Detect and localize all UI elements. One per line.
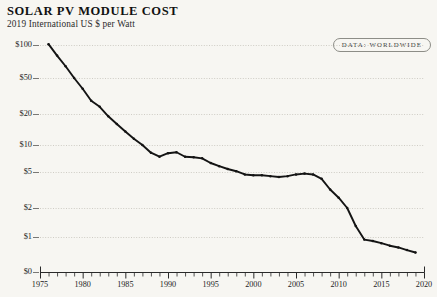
data-series-line bbox=[47, 43, 416, 254]
x-axis-tick-label: 1990 bbox=[148, 280, 188, 289]
data-point bbox=[414, 251, 417, 254]
data-point bbox=[141, 144, 144, 147]
data-point bbox=[329, 188, 332, 191]
data-point bbox=[372, 240, 375, 243]
data-point bbox=[226, 168, 229, 171]
data-point bbox=[303, 172, 306, 175]
x-axis-tick-label: 2010 bbox=[319, 280, 359, 289]
data-point bbox=[209, 162, 212, 165]
data-point bbox=[406, 249, 409, 252]
data-point bbox=[81, 88, 84, 91]
x-axis-tick-label: 1985 bbox=[105, 280, 145, 289]
x-tick-marks bbox=[41, 273, 425, 279]
data-point bbox=[363, 238, 366, 241]
y-axis-tick-label: $10 bbox=[0, 140, 32, 149]
x-axis-tick-label: 1975 bbox=[20, 280, 60, 289]
data-point bbox=[278, 176, 281, 179]
data-point bbox=[252, 174, 255, 177]
x-axis-tick-label: 2000 bbox=[233, 280, 273, 289]
data-point bbox=[286, 175, 289, 178]
data-point bbox=[150, 151, 153, 154]
y-axis-tick-label: $0 bbox=[0, 267, 32, 276]
data-point bbox=[312, 173, 315, 176]
y-axis-tick-label: $100 bbox=[0, 40, 32, 49]
x-axis-tick-label: 2015 bbox=[361, 280, 401, 289]
gridlines bbox=[33, 46, 424, 273]
data-point bbox=[389, 244, 392, 247]
data-point bbox=[235, 170, 238, 173]
data-point bbox=[244, 173, 247, 176]
data-point bbox=[261, 174, 264, 177]
data-point bbox=[337, 196, 340, 199]
data-point bbox=[158, 155, 161, 158]
axis-lines bbox=[41, 267, 425, 273]
data-point bbox=[218, 165, 221, 168]
data-point bbox=[380, 242, 383, 245]
series-path bbox=[49, 44, 416, 252]
plot-svg bbox=[0, 0, 437, 297]
data-point bbox=[90, 100, 93, 103]
data-point bbox=[98, 106, 101, 109]
chart-container: SOLAR PV MODULE COST 2019 International … bbox=[0, 0, 437, 297]
data-point bbox=[192, 156, 195, 159]
y-axis-tick-label: $20 bbox=[0, 109, 32, 118]
data-point bbox=[47, 43, 50, 46]
y-axis-tick-label: $2 bbox=[0, 203, 32, 212]
data-point bbox=[354, 225, 357, 228]
x-axis-tick-label: 2020 bbox=[404, 280, 437, 289]
data-point bbox=[124, 130, 127, 133]
x-axis-tick-label: 2005 bbox=[276, 280, 316, 289]
data-point bbox=[133, 138, 136, 141]
x-axis-tick-label: 1980 bbox=[63, 280, 103, 289]
data-point bbox=[320, 178, 323, 181]
data-point bbox=[346, 207, 349, 210]
data-point bbox=[116, 123, 119, 126]
data-point bbox=[107, 115, 110, 118]
y-axis-tick-label: $5 bbox=[0, 167, 32, 176]
data-point bbox=[201, 157, 204, 160]
data-point bbox=[167, 152, 170, 155]
x-axis-tick-label: 1995 bbox=[191, 280, 231, 289]
data-point bbox=[64, 65, 67, 68]
y-axis-tick-label: $1 bbox=[0, 232, 32, 241]
y-axis-tick-label: $50 bbox=[0, 73, 32, 82]
data-point bbox=[397, 246, 400, 249]
data-point bbox=[175, 151, 178, 154]
data-point bbox=[269, 175, 272, 178]
data-point bbox=[295, 173, 298, 176]
data-point bbox=[56, 54, 59, 57]
data-point bbox=[184, 155, 187, 158]
data-point bbox=[73, 77, 76, 80]
